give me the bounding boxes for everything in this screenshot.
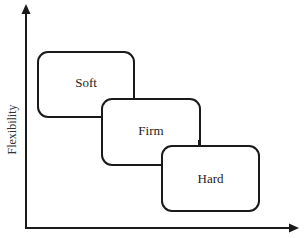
box-hard-label: Hard [162,171,259,187]
y-axis-label: Flexibility [5,90,20,170]
box-soft-label: Soft [38,75,134,91]
y-axis-arrowhead-icon [22,4,31,14]
diagram-canvas [0,0,305,238]
x-axis-arrowhead-icon [289,224,299,233]
box-firm-label: Firm [102,123,200,139]
